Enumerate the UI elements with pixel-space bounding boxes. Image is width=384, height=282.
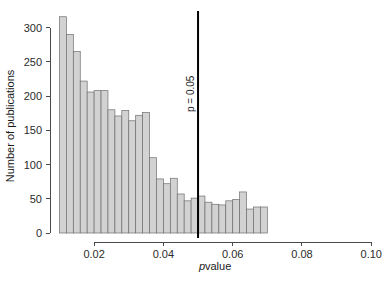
histogram-figure: 050100150200250300 0.020.040.060.080.10 … bbox=[0, 0, 384, 282]
histogram-bar bbox=[108, 110, 115, 233]
p-value-histogram: 050100150200250300 0.020.040.060.080.10 … bbox=[0, 0, 384, 282]
p-threshold-text: p = 0.05 bbox=[185, 75, 196, 112]
histogram-bar bbox=[73, 52, 80, 233]
histogram-bar bbox=[260, 207, 267, 233]
y-axis-title: Number of publications bbox=[4, 69, 16, 182]
y-tick-label: 50 bbox=[30, 193, 42, 205]
histogram-bar bbox=[170, 178, 177, 233]
histogram-bar bbox=[247, 209, 254, 233]
x-tick-label: 0.04 bbox=[153, 248, 174, 260]
histogram-bar bbox=[143, 113, 150, 233]
histogram-bar bbox=[66, 35, 73, 233]
histogram-bar bbox=[163, 184, 170, 233]
y-tick-label: 300 bbox=[24, 22, 42, 34]
histogram-bar bbox=[184, 201, 191, 233]
bars-group bbox=[59, 17, 267, 233]
x-tick-label: 0.02 bbox=[83, 248, 104, 260]
histogram-bar bbox=[219, 205, 226, 233]
histogram-bar bbox=[59, 17, 66, 233]
histogram-bar bbox=[156, 179, 163, 233]
histogram-bar bbox=[198, 196, 205, 233]
y-axis bbox=[46, 28, 50, 233]
histogram-bar bbox=[177, 194, 184, 233]
y-tick-label: 0 bbox=[36, 227, 42, 239]
x-axis-title-rest: value bbox=[205, 260, 231, 272]
y-tick-label: 100 bbox=[24, 159, 42, 171]
histogram-bar bbox=[191, 198, 198, 233]
x-axis-title: p value bbox=[198, 260, 231, 272]
histogram-bar bbox=[253, 207, 260, 233]
y-tick-label: 150 bbox=[24, 124, 42, 136]
histogram-bar bbox=[136, 115, 143, 233]
histogram-bar bbox=[94, 91, 101, 233]
histogram-bar bbox=[212, 204, 219, 233]
histogram-bar bbox=[233, 199, 240, 233]
y-tick-labels: 050100150200250300 bbox=[24, 22, 42, 239]
x-tick-label: 0.06 bbox=[222, 248, 243, 260]
x-tick-labels: 0.020.040.060.080.10 bbox=[83, 248, 382, 260]
histogram-bar bbox=[226, 201, 233, 233]
x-axis-title-italic-p: p bbox=[198, 260, 205, 272]
y-tick-label: 250 bbox=[24, 56, 42, 68]
p-threshold-label: p = 0.05 bbox=[185, 75, 196, 112]
histogram-bar bbox=[122, 111, 129, 234]
histogram-bar bbox=[129, 121, 136, 233]
y-tick-label: 200 bbox=[24, 90, 42, 102]
histogram-bar bbox=[115, 116, 122, 233]
histogram-bar bbox=[101, 91, 108, 233]
x-tick-label: 0.08 bbox=[291, 248, 312, 260]
histogram-bar bbox=[240, 192, 247, 233]
histogram-bar bbox=[80, 81, 87, 233]
histogram-bar bbox=[150, 158, 157, 233]
histogram-bar bbox=[205, 202, 212, 233]
histogram-bar bbox=[87, 92, 94, 233]
x-axis bbox=[94, 242, 371, 246]
x-tick-label: 0.10 bbox=[361, 248, 382, 260]
